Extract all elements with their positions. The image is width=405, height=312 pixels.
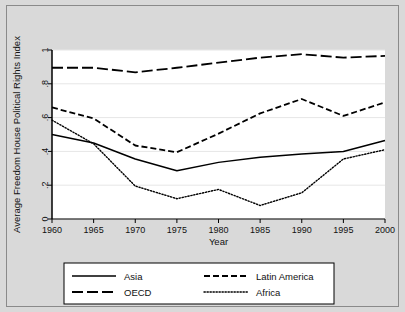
y-axis-tick-label: 1 bbox=[40, 47, 50, 52]
x-axis-tick-label: 1975 bbox=[167, 225, 187, 235]
x-axis-tick-label: 1970 bbox=[125, 225, 145, 235]
y-axis-tick-label: .2 bbox=[40, 181, 50, 189]
x-axis-tick-label: 1965 bbox=[84, 225, 104, 235]
legend-label-oecd: OECD bbox=[124, 287, 152, 298]
x-axis-tick-label: 2000 bbox=[375, 225, 395, 235]
x-axis-tick-label: 1990 bbox=[292, 225, 312, 235]
x-axis-title: Year bbox=[209, 236, 228, 247]
y-axis-tick-label: .8 bbox=[40, 80, 50, 88]
legend-label-latin-america: Latin America bbox=[256, 271, 314, 282]
line-chart: 0.2.4.6.81Average Freedom House Politica… bbox=[0, 0, 405, 312]
x-axis: 196019651970197519801985199019952000 bbox=[42, 219, 395, 235]
y-axis-tick-label: .4 bbox=[40, 148, 50, 156]
x-axis-tick-label: 1960 bbox=[42, 225, 62, 235]
legend: AsiaLatin AmericaOECDAfrica bbox=[64, 263, 334, 304]
legend-box bbox=[64, 263, 334, 304]
legend-label-asia: Asia bbox=[124, 271, 143, 282]
y-axis-tick-label: .6 bbox=[40, 114, 50, 122]
y-axis: 0.2.4.6.81 bbox=[40, 47, 52, 221]
x-axis-tick-label: 1995 bbox=[333, 225, 353, 235]
x-axis-tick-label: 1985 bbox=[250, 225, 270, 235]
y-axis-title: Average Freedom House Political Rights I… bbox=[11, 36, 22, 233]
chart-figure: 0.2.4.6.81Average Freedom House Politica… bbox=[0, 0, 405, 312]
legend-label-africa: Africa bbox=[256, 287, 281, 298]
y-axis-tick-label: 0 bbox=[40, 216, 50, 221]
x-axis-tick-label: 1980 bbox=[208, 225, 228, 235]
